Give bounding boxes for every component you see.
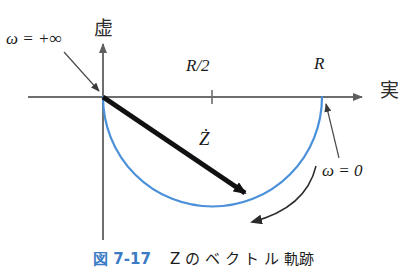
omega-infinity-label: ω = +∞ bbox=[6, 30, 62, 47]
r-label: R bbox=[314, 55, 324, 72]
figure-number: 図 7-17 bbox=[93, 252, 151, 267]
real-axis-label: 実 bbox=[380, 81, 399, 100]
figure-caption-text: Ż の ベ ク ト ル 軌跡 bbox=[170, 252, 314, 267]
z-dot-vector bbox=[103, 97, 245, 193]
figure-caption: 図 7-17 Ż の ベ ク ト ル 軌跡 bbox=[0, 252, 407, 267]
z-dot-label: Ż bbox=[199, 129, 210, 148]
omega-infinity-leader bbox=[64, 52, 99, 91]
r-half-label: R/2 bbox=[186, 57, 210, 74]
semicircle-locus bbox=[103, 97, 322, 207]
imaginary-axis-label: 虚 bbox=[94, 19, 113, 38]
omega-zero-label: ω = 0 bbox=[322, 162, 362, 179]
omega-zero-leader bbox=[326, 104, 339, 158]
